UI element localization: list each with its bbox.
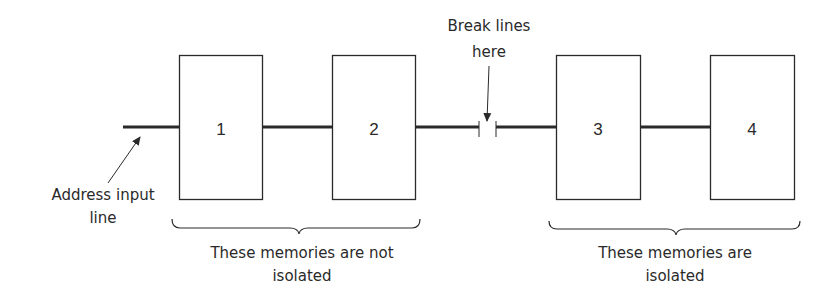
- memory-box-4: 4: [711, 56, 795, 200]
- memory-label-3: 3: [593, 120, 602, 139]
- memory-isolation-diagram: 1 2 3 4 Address input line Break lines h…: [0, 0, 838, 303]
- break-label-line1: Break lines: [448, 17, 531, 35]
- memory-label-1: 1: [216, 120, 225, 139]
- address-label-line2: line: [89, 209, 116, 227]
- memory-box-3: 3: [557, 56, 641, 200]
- address-label-line1: Address input: [51, 186, 154, 204]
- break-label-line2: here: [472, 43, 506, 61]
- memory-box-1: 1: [180, 56, 263, 200]
- memory-box-2: 2: [333, 56, 416, 200]
- group-not-isolated-line1: These memories are not: [209, 244, 393, 262]
- group-not-isolated-line2: isolated: [272, 267, 331, 285]
- group-isolated-line2: isolated: [645, 267, 704, 285]
- brace-not-isolated-icon: [172, 219, 420, 234]
- memory-label-2: 2: [369, 120, 378, 139]
- group-isolated-line1: These memories are: [597, 244, 752, 262]
- brace-isolated-icon: [549, 221, 800, 235]
- break-arrow-icon: [487, 66, 489, 121]
- address-arrow-icon: [108, 137, 140, 183]
- memory-label-4: 4: [747, 120, 756, 139]
